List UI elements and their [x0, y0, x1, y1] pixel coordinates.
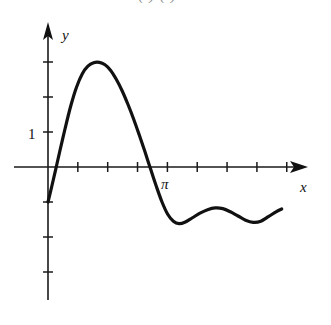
figure-canvas: ( ) ( ) = y x π 1	[0, 0, 331, 325]
x-axis-label: x	[299, 179, 307, 195]
function-graph: y x π 1	[0, 0, 331, 325]
function-curve	[48, 62, 282, 224]
y-axis-label: y	[60, 27, 69, 43]
y-tick-label-one: 1	[28, 126, 36, 142]
x-tick-label-pi: π	[161, 176, 169, 192]
